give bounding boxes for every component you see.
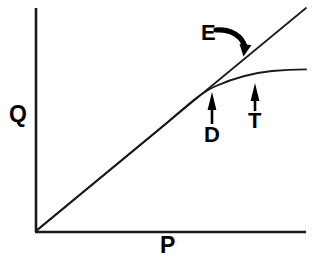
annotation-label-t: T: [248, 110, 261, 132]
q-axis-label: Q: [9, 103, 27, 126]
arrow-up-icon-t: [251, 83, 260, 111]
plot-canvas: [0, 0, 322, 259]
annotation-label-e: E: [201, 22, 216, 44]
curved-arrow-icon: [216, 30, 252, 57]
saturating-curve-series: [36, 69, 306, 231]
figure-panel: Q P E D T: [0, 0, 322, 259]
p-axis-label: P: [160, 234, 175, 257]
annotation-label-d: D: [204, 124, 220, 146]
arrow-up-icon-d: [208, 92, 217, 124]
